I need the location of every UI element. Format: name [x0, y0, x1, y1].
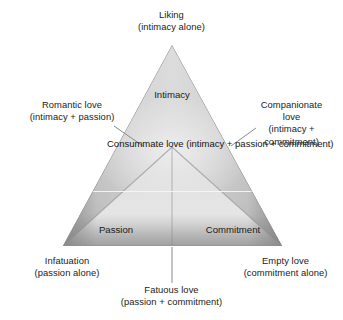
callout-liking-line1: Liking [0, 9, 343, 21]
center-label-line2: love [166, 138, 183, 149]
center-label-line5: commitment) [279, 138, 334, 149]
callout-empty-love-line1: Empty love [228, 255, 343, 267]
triangular-theory-of-love-diagram: Liking (intimacy alone) Romantic love (i… [0, 0, 343, 320]
callout-empty-love: Empty love (commitment alone) [228, 255, 343, 279]
center-label-line4: passion + [235, 138, 276, 149]
callout-infatuation: Infatuation (passion alone) [0, 255, 134, 279]
callout-infatuation-line1: Infatuation [0, 255, 134, 267]
center-label-line1: Consummate [107, 138, 164, 149]
callout-romantic-love: Romantic love (intimacy + passion) [2, 99, 142, 123]
callout-romantic-love-line2: (intimacy + passion) [2, 111, 142, 123]
callout-companionate-love-line3: (intimacy + [240, 123, 343, 135]
callout-liking: Liking (intimacy alone) [0, 9, 343, 33]
callout-fatuous-love-line1: Fatuous love [0, 284, 343, 296]
callout-fatuous-love-line2: (passion + commitment) [0, 296, 343, 308]
callout-infatuation-line2: (passion alone) [0, 267, 134, 279]
center-label-line3: (intimacy + [186, 138, 232, 149]
callout-liking-line2: (intimacy alone) [0, 21, 343, 33]
callout-empty-love-line2: (commitment alone) [228, 267, 343, 279]
vertex-label-passion: Passion [80, 224, 152, 236]
vertex-label-commitment: Commitment [193, 224, 273, 236]
callout-romantic-love-line1: Romantic love [2, 99, 142, 111]
callout-fatuous-love: Fatuous love (passion + commitment) [0, 284, 343, 308]
callout-companionate-love-line1: Companionate [240, 99, 343, 111]
callout-companionate-love-line2: love [240, 111, 343, 123]
vertex-label-intimacy: Intimacy [122, 89, 222, 101]
center-label-consummate-love: Consummate love (intimacy + passion + co… [107, 138, 237, 150]
